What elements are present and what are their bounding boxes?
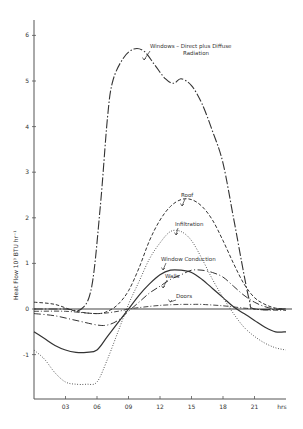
x-tick-label: 03 — [62, 403, 70, 410]
y-tick-label: -1 — [23, 351, 29, 358]
annotation-label: Radiation — [183, 50, 210, 56]
x-tick-label: 21 — [251, 403, 259, 410]
x-tick-label: 15 — [188, 403, 196, 410]
y-tick-label: 1 — [25, 259, 29, 266]
annotation-label: Windows – Direct plus Diffuse — [150, 43, 232, 50]
y-tick-label: 6 — [25, 31, 29, 38]
y-tick-label: 5 — [25, 77, 29, 84]
axes: -1012345603060912151821hrsHeat Flow 10³ … — [12, 20, 292, 410]
chart-canvas: -1012345603060912151821hrsHeat Flow 10³ … — [0, 0, 303, 429]
annotation-label: Roof — [181, 192, 194, 198]
series-infiltration — [34, 230, 286, 384]
heat-flow-chart: -1012345603060912151821hrsHeat Flow 10³ … — [0, 0, 303, 429]
annotation-label: Window Conduction — [161, 256, 216, 262]
y-axis-label: Heat Flow 10³ BTU hr⁻¹ — [12, 230, 19, 300]
y-tick-label: 0 — [25, 305, 29, 312]
x-tick-label: 06 — [93, 403, 101, 410]
annotation-label: Doors — [176, 293, 192, 299]
series-window-conduction — [34, 270, 286, 353]
x-tick-label: 12 — [156, 403, 164, 410]
annotation-label: Infiltration — [175, 221, 204, 227]
annotations: Windows – Direct plus DiffuseRadiationRo… — [143, 43, 233, 302]
x-tick-label: 18 — [219, 403, 227, 410]
series-lines — [34, 49, 286, 385]
x-tick-label: 09 — [125, 403, 133, 410]
x-axis-label: hrs — [277, 403, 286, 410]
y-tick-label: 4 — [25, 123, 29, 130]
y-tick-label: 3 — [25, 168, 29, 175]
annotation-label: Walls — [165, 273, 180, 279]
series-windows-direct-plus-diffuse-radiation — [34, 49, 286, 311]
y-tick-label: 2 — [25, 214, 29, 221]
